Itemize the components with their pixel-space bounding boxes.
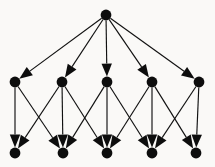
graph-node-m2 [57, 77, 68, 88]
graph-edge-m5-b5 [197, 87, 199, 134]
graph-edge-r-m4 [109, 19, 142, 66]
graph-node-m3 [102, 77, 113, 88]
arrowhead-icon-m2-b1 [18, 135, 30, 149]
graph-node-b2 [58, 148, 69, 159]
graph-node-b4 [147, 148, 158, 159]
arrowhead-icon-r-m3 [102, 64, 112, 77]
graph-edge-m3-b2 [73, 87, 104, 138]
graph-edge-m4-b3 [117, 87, 149, 138]
graph-edge-m4-b5 [155, 87, 186, 138]
graph-node-b5 [191, 148, 202, 159]
graph-node-r [101, 10, 112, 21]
graph-node-m5 [194, 77, 205, 88]
arrowhead-layer [10, 64, 202, 149]
graph-edge-r-m1 [30, 18, 102, 71]
arrowhead-icon-m2-b3 [93, 135, 104, 149]
arrowhead-icon-r-m5 [181, 67, 195, 79]
arrowhead-icon-m4-b3 [110, 135, 121, 149]
graph-node-b3 [102, 148, 113, 159]
graph-edge-m3-b4 [110, 87, 142, 138]
arrowhead-icon-r-m4 [137, 64, 149, 78]
graph-edge-m1-b2 [18, 86, 53, 137]
arrowhead-icon-m5-b5 [192, 134, 202, 147]
graph-edge-m5-b4 [162, 87, 196, 138]
graph-edge-m2-b3 [65, 87, 97, 138]
arrowhead-icon-m5-b4 [155, 135, 167, 149]
graph-node-m1 [10, 77, 21, 88]
graph-edge-m2-b1 [25, 87, 59, 138]
graph-edge-r-m3 [106, 20, 107, 63]
graph-canvas [0, 0, 215, 167]
graph-edge-m2-b2 [62, 87, 63, 134]
graph-edge-r-m5 [110, 18, 184, 71]
arrowhead-icon-m3-b4 [138, 135, 149, 149]
arrowhead-icon-r-m1 [19, 67, 33, 79]
graph-node-b1 [10, 148, 21, 159]
arrowhead-icon-r-m2 [65, 64, 76, 78]
directed-graph-figure [0, 0, 215, 167]
graph-node-m4 [147, 77, 158, 88]
arrowhead-icon-m3-b2 [66, 135, 77, 149]
arrowhead-icon-m4-b5 [182, 135, 193, 149]
arrowhead-icon-m1-b2 [48, 135, 60, 149]
graph-edge-r-m2 [72, 20, 103, 67]
